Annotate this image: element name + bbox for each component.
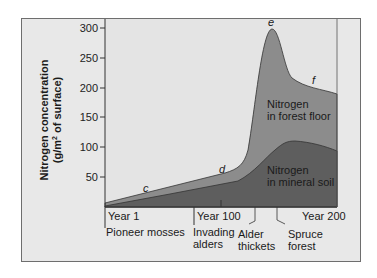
point-label-e: e	[268, 16, 274, 28]
y-tick-300: 300	[80, 22, 98, 34]
stage-alder-thickets-2: thickets	[238, 240, 276, 252]
forest-floor-label-1: Nitrogen	[267, 98, 309, 110]
alder-leader	[249, 207, 255, 224]
mineral-soil-label-1: Nitrogen	[267, 164, 309, 176]
stage-invading-alders-2: alders	[193, 238, 223, 250]
point-label-c: c	[143, 182, 149, 194]
y-tick-150: 150	[80, 111, 98, 123]
y-tick-250: 250	[80, 52, 98, 64]
x-tick-year200: Year 200	[302, 210, 346, 222]
svg-text:Nitrogen concentration: Nitrogen concentration	[38, 59, 50, 180]
y-ticks	[100, 28, 105, 177]
x-tick-year100: Year 100	[197, 210, 241, 222]
chart-svg: 50 100 150 200 250 300 Nitrogen concentr…	[0, 0, 377, 278]
y-tick-200: 200	[80, 82, 98, 94]
stage-alder-thickets-1: Alder	[238, 228, 264, 240]
spruce-leader	[277, 207, 285, 224]
point-label-d: d	[219, 163, 226, 175]
stage-pioneer-mosses: Pioneer mosses	[106, 226, 185, 238]
stage-invading-alders-1: Invading	[193, 226, 235, 238]
y-tick-100: 100	[80, 141, 98, 153]
forest-floor-label-2: in forest floor	[267, 110, 331, 122]
y-tick-50: 50	[86, 171, 98, 183]
y-axis-label: Nitrogen concentration (g/m2 of surface)	[38, 59, 63, 180]
stage-spruce-forest-1: Spruce	[288, 228, 323, 240]
x-tick-year1: Year 1	[108, 210, 139, 222]
mineral-soil-label-2: in mineral soil	[267, 176, 334, 188]
stage-spruce-forest-2: forest	[288, 240, 316, 252]
svg-text:(g/m2 of surface): (g/m2 of surface)	[51, 76, 63, 163]
